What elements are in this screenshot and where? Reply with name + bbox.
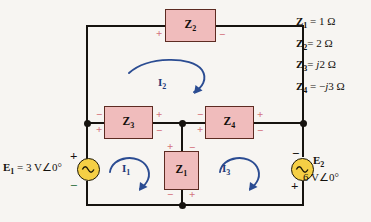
impedance-z1-label: Z1	[175, 163, 187, 178]
current-label-i1: I1	[122, 162, 130, 177]
impedance-z4[interactable]: Z4	[205, 106, 254, 139]
legend-row-z2: Z2= 2 Ω	[296, 35, 345, 57]
source-label-e2-value: 6 V∠0°	[303, 171, 339, 184]
impedance-z3-label: Z3	[122, 115, 134, 130]
impedance-legend: Z1 = 1 Ω Z2= 2 Ω Z3= j2 Ω Z4 = −j3 Ω	[296, 13, 345, 100]
ac-source-e1[interactable]	[77, 158, 100, 181]
wire-bottom-left	[86, 204, 182, 206]
polarity-z1-top-left: +	[167, 142, 173, 151]
impedance-z2[interactable]: Z2	[165, 9, 216, 42]
impedance-z1[interactable]: Z1	[164, 151, 199, 190]
polarity-e2-minus: −	[292, 148, 299, 159]
node-center-mid	[179, 120, 186, 127]
circuit-diagram-canvas: Z2 Z3 Z4 Z1 + − − + + − − + + − + − − + …	[0, 0, 371, 222]
polarity-z4-left-lower: +	[197, 125, 203, 134]
polarity-z1-top-right: −	[189, 143, 195, 152]
polarity-e1-minus: −	[70, 180, 77, 191]
impedance-z3[interactable]: Z3	[104, 106, 153, 139]
polarity-e2-plus: +	[291, 180, 298, 191]
node-right-mid	[300, 120, 307, 127]
current-label-i3: I3	[222, 162, 230, 177]
sine-wave-icon	[78, 159, 99, 180]
node-center-bottom	[179, 202, 186, 209]
polarity-z3-left-upper: −	[96, 110, 102, 119]
polarity-z3-right-lower: −	[156, 126, 162, 135]
polarity-z4-right-lower: −	[257, 126, 263, 135]
polarity-z2-plus: +	[156, 29, 162, 38]
impedance-z3-subscript: 3	[130, 121, 134, 130]
source-label-e1-symbol: E1	[3, 161, 14, 173]
polarity-z2-minus: −	[219, 30, 225, 39]
impedance-z4-subscript: 4	[231, 121, 235, 130]
source-label-e1-value: = 3 V∠0°	[17, 161, 62, 173]
impedance-z2-subscript: 2	[192, 24, 196, 33]
polarity-z1-bottom-left: −	[167, 190, 173, 199]
wire-top-right	[216, 25, 304, 27]
polarity-e1-plus: +	[70, 150, 77, 161]
impedance-z1-subscript: 1	[183, 169, 187, 178]
current-arrow-i2	[126, 58, 216, 102]
polarity-z3-right-upper: +	[156, 110, 162, 119]
legend-row-z3: Z3= j2 Ω	[296, 56, 345, 78]
polarity-z1-bottom-right: +	[189, 190, 195, 199]
legend-row-z4: Z4 = −j3 Ω	[296, 78, 345, 100]
source-label-e1: E1 = 3 V∠0°	[3, 161, 62, 176]
wire-left-upper	[86, 25, 88, 122]
impedance-z2-label: Z2	[184, 18, 196, 33]
wire-right-lower	[302, 181, 304, 206]
wire-bottom-right	[180, 204, 304, 206]
current-label-i2: I2	[158, 76, 166, 91]
node-left-mid	[84, 120, 91, 127]
wire-left-lower	[86, 181, 88, 206]
source-label-e2: E2 6 V∠0°	[313, 154, 339, 184]
polarity-z4-left-upper: −	[197, 110, 203, 119]
polarity-z4-right-upper: +	[257, 110, 263, 119]
wire-top-left	[86, 25, 165, 27]
impedance-z4-label: Z4	[223, 115, 235, 130]
polarity-z3-left-lower: +	[96, 125, 102, 134]
legend-row-z1: Z1 = 1 Ω	[296, 13, 345, 35]
source-label-e2-symbol: E2	[313, 154, 324, 166]
